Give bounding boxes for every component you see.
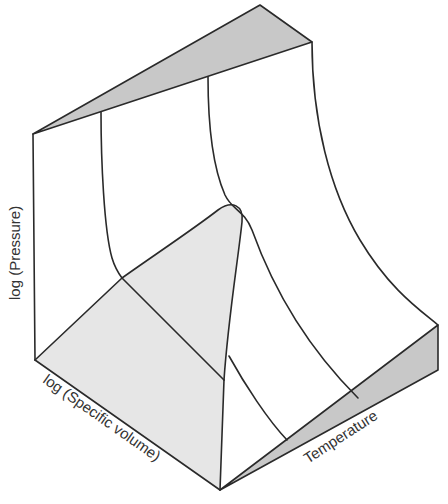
- left-vertical-edge: [33, 134, 35, 360]
- pressure-axis-label: log (Pressure): [6, 206, 23, 300]
- isotherm-1: [101, 112, 122, 278]
- temperature-base-face: [220, 325, 438, 490]
- right-surface-edge: [312, 42, 438, 325]
- isotherm-3-lower: [229, 356, 287, 440]
- pvt-surface-diagram: log (Pressure) log (Specific volume) Tem…: [0, 0, 448, 504]
- top-face: [33, 5, 312, 134]
